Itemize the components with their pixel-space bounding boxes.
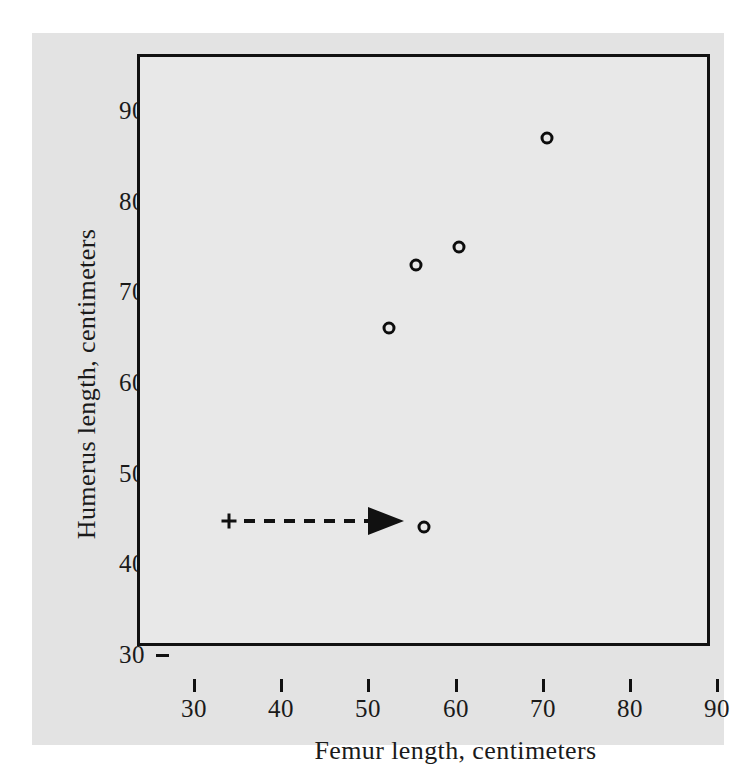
data-point xyxy=(383,322,396,335)
plot-frame xyxy=(137,54,710,646)
y-tick-mark-30 xyxy=(156,654,169,657)
x-tick-label-80: 80 xyxy=(600,695,660,723)
x-tick-mark-40 xyxy=(280,679,283,692)
x-tick-mark-50 xyxy=(367,679,370,692)
data-point xyxy=(453,240,466,253)
x-tick-label-40: 40 xyxy=(251,695,311,723)
plot-area xyxy=(140,57,707,643)
x-tick-mark-60 xyxy=(455,679,458,692)
data-point xyxy=(540,132,553,145)
x-tick-label-30: 30 xyxy=(164,695,224,723)
data-point xyxy=(409,258,422,271)
x-tick-label-90: 90 xyxy=(687,695,747,723)
x-tick-mark-90 xyxy=(716,679,719,692)
x-tick-mark-80 xyxy=(629,679,632,692)
x-axis-label: Femur length, centimeters xyxy=(169,736,742,766)
x-tick-mark-30 xyxy=(193,679,196,692)
x-tick-label-70: 70 xyxy=(513,695,573,723)
x-tick-label-50: 50 xyxy=(338,695,398,723)
figure-root: Humerus length, centimeters 90 80 70 60 … xyxy=(0,0,756,778)
x-tick-label-60: 60 xyxy=(426,695,486,723)
x-tick-mark-70 xyxy=(542,679,545,692)
highlighted-point xyxy=(418,520,431,533)
